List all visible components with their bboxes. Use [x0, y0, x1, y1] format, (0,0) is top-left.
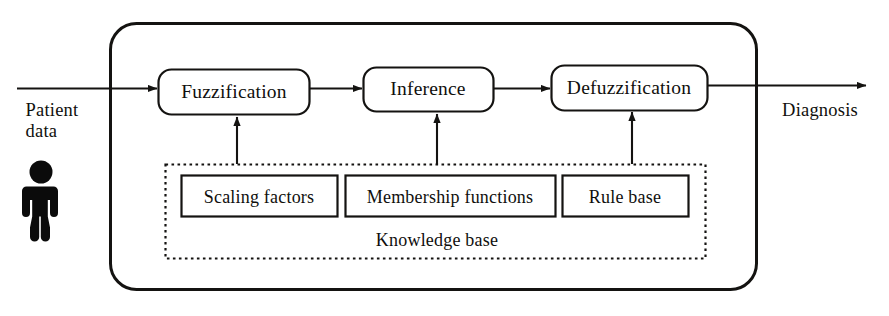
knowledge-base-label-membership-functions: Membership functions	[367, 188, 533, 206]
input-label-line2: data	[26, 121, 79, 142]
stage-label-fuzzification: Fuzzification	[181, 82, 286, 102]
stage-label-inference: Inference	[390, 79, 465, 99]
knowledge-base-label-rule-base: Rule base	[589, 188, 661, 206]
knowledge-base-label-scaling-factors: Scaling factors	[204, 188, 314, 206]
diagram-canvas: Patient data Diagnosis Fuzzification Inf…	[0, 0, 889, 316]
stage-label-defuzzification: Defuzzification	[567, 78, 691, 98]
knowledge-base-title: Knowledge base	[376, 231, 498, 249]
person-icon	[22, 161, 58, 242]
input-label: Patient data	[26, 100, 79, 143]
input-label-line1: Patient	[26, 100, 79, 121]
output-label: Diagnosis	[782, 100, 858, 121]
diagram-vector-layer	[0, 0, 889, 316]
